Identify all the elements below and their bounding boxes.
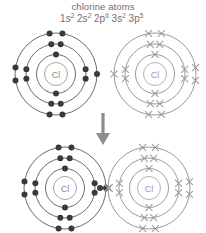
electron-dot — [32, 180, 38, 186]
nucleus-label: Cl — [151, 70, 160, 80]
config-term-1s: 1s2 — [60, 13, 74, 24]
nucleus-label: Cl — [52, 70, 61, 80]
electron-dot — [48, 101, 54, 107]
electron-dot — [58, 101, 64, 107]
config-exp-3p: 5 — [140, 12, 144, 19]
electron-dot — [47, 31, 53, 37]
page-title: chlorine atoms — [0, 1, 206, 12]
top-right-atom: Cl — [107, 26, 203, 122]
electron-dot — [22, 191, 28, 197]
electron-dot — [47, 111, 53, 117]
electron-dot — [67, 215, 73, 221]
electron-dot — [57, 155, 63, 161]
electron-dot — [59, 111, 65, 117]
electron-dot — [58, 41, 64, 47]
config-exp-2s: 2 — [88, 12, 92, 19]
config-term-2s: 2s2 — [77, 13, 91, 24]
electron-dot — [67, 155, 73, 161]
config-term-3p: 3p5 — [128, 13, 143, 24]
electron-dot — [59, 31, 65, 37]
electron-dot — [23, 66, 29, 72]
electron-dot — [56, 225, 62, 231]
electron-dot — [62, 166, 68, 172]
electron-dot — [48, 41, 54, 47]
electron-dot — [83, 66, 89, 72]
nucleus-label: Cl — [61, 184, 70, 194]
electron-dot — [22, 179, 28, 185]
electron-dot — [57, 215, 63, 221]
electron-dot — [68, 145, 74, 151]
shared-electron-pair — [89, 173, 129, 203]
diagram-canvas: chlorine atoms 1s22s22p63s23p5 Cl Cl Cl — [0, 0, 206, 233]
electron-dot — [83, 76, 89, 82]
config-exp-1s: 2 — [71, 12, 75, 19]
electron-dot — [13, 65, 19, 71]
electron-dot — [53, 91, 59, 97]
config-term-2p: 2p6 — [94, 13, 109, 24]
electron-dot — [32, 190, 38, 196]
top-left-atom: Cl — [8, 26, 104, 122]
shared-dot — [97, 185, 103, 191]
nucleus-label: Cl — [145, 184, 154, 194]
electron-dot — [23, 76, 29, 82]
electron-dot — [13, 77, 19, 83]
shared-cross — [107, 185, 113, 192]
electron-dot — [56, 145, 62, 151]
electron-dot — [62, 205, 68, 211]
config-exp-3s: 2 — [122, 12, 126, 19]
config-term-3s: 3s2 — [111, 13, 125, 24]
electron-dot — [94, 71, 100, 77]
electron-dot — [68, 225, 74, 231]
electron-dot — [53, 52, 59, 58]
config-exp-2p: 6 — [105, 12, 109, 19]
electron-configuration: 1s22s22p63s23p5 — [0, 13, 206, 24]
